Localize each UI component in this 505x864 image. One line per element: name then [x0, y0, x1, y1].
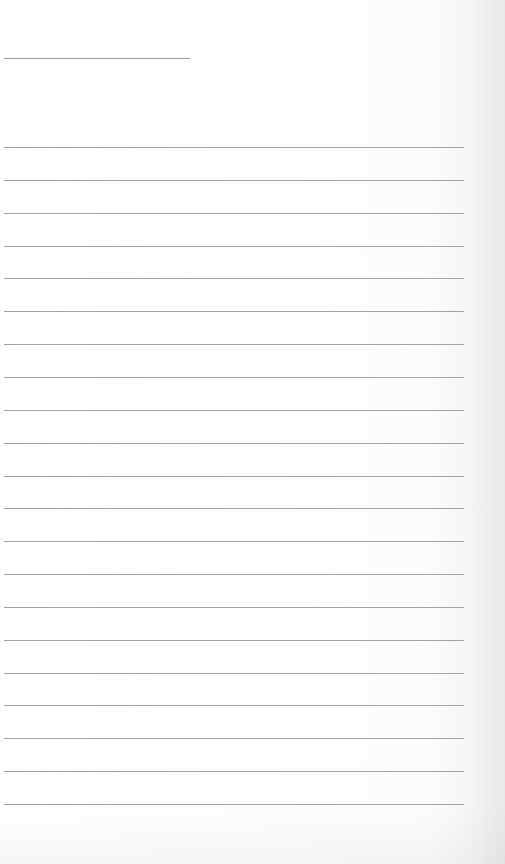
- right-edge-shadow: [465, 0, 505, 864]
- ruled-line: [4, 410, 464, 411]
- ruled-line: [4, 443, 464, 444]
- ruled-line: [4, 705, 464, 706]
- ruled-line: [4, 541, 464, 542]
- ruled-line: [4, 508, 464, 509]
- ruled-line: [4, 640, 464, 641]
- bottom-edge-shadow: [0, 804, 505, 864]
- ruled-line: [4, 344, 464, 345]
- ruled-line: [4, 574, 464, 575]
- ruled-line: [4, 180, 464, 181]
- ruled-line: [4, 673, 464, 674]
- ruled-line: [4, 771, 464, 772]
- ruled-line: [4, 278, 464, 279]
- ruled-line: [4, 476, 464, 477]
- header-rule: [4, 58, 190, 59]
- ruled-line: [4, 738, 464, 739]
- lined-paper-page: [0, 0, 505, 864]
- ruled-line: [4, 377, 464, 378]
- ruled-line: [4, 213, 464, 214]
- ruled-line: [4, 311, 464, 312]
- ruled-line: [4, 607, 464, 608]
- ruled-line: [4, 246, 464, 247]
- ruled-line: [4, 147, 464, 148]
